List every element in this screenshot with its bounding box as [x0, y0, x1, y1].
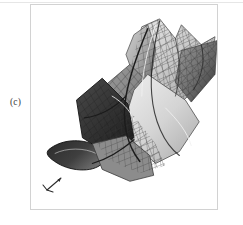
axis-triad-icon — [41, 173, 67, 195]
plot-frame — [30, 4, 218, 210]
scan-artifact-line — [0, 2, 243, 3]
panel-label: (c) — [10, 98, 21, 108]
